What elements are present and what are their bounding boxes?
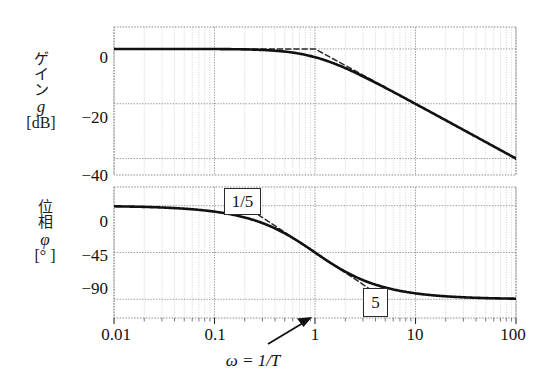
x-axis-title: ω = 1/T (226, 351, 281, 371)
gain-axis-label-char-2: ン (34, 83, 49, 98)
gain-axis-symbol: g (37, 98, 46, 115)
gain-axis-unit: [dB] (26, 115, 55, 131)
phase-ytick-label-2: −90 (81, 279, 108, 299)
phase-axis-label: 位 相 φ [° ] (22, 200, 68, 264)
gain-axis-label: ゲ イ ン g [dB] (18, 52, 64, 132)
xtick-label-2: 1 (311, 325, 320, 345)
phase-axis-symbol: φ (40, 231, 49, 248)
phase-ytick-label-0: 0 (100, 212, 109, 232)
phase-axis-label-char-1: 相 (38, 215, 53, 230)
xtick-label-1: 0.1 (204, 325, 225, 345)
corner-high-annotation-box: 5 (363, 288, 388, 317)
omega-pointer-arrow (268, 317, 312, 344)
gain-ytick-label-1: −20 (81, 108, 108, 128)
bode-plot-figure (0, 0, 539, 382)
corner-low-annotation-box: 1/5 (224, 188, 261, 215)
phase-ytick-label-1: −45 (81, 246, 108, 266)
x-axis-minor-ticks (144, 318, 511, 322)
gain-ytick-label-2: −40 (81, 166, 108, 186)
xtick-label-4: 100 (500, 325, 526, 345)
xtick-label-3: 10 (407, 325, 424, 345)
phase-axis-unit: [° ] (34, 248, 55, 264)
xtick-label-0: 0.01 (101, 325, 131, 345)
gain-ytick-label-0: 0 (100, 48, 109, 68)
